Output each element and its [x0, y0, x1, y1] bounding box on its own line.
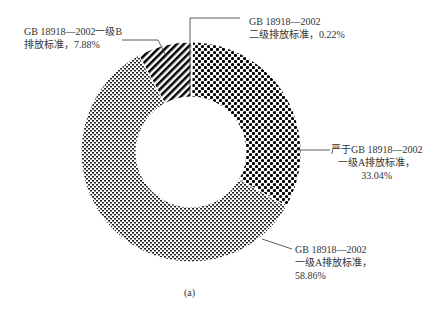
- label-grade1a: GB 18918—2002 一级A排放标准， 58.86%: [295, 243, 372, 282]
- label-grade1b-line2: 排放标准，7.88%: [24, 38, 122, 51]
- label-grade1a-line1: GB 18918—2002: [295, 243, 372, 256]
- label-stricter-line3: 33.04%: [331, 169, 422, 182]
- label-grade1b-line1: GB 18918—2002一级B: [24, 25, 122, 38]
- figure-caption: (a): [184, 286, 195, 299]
- leader-grade1a: [262, 239, 292, 249]
- slice-1: [192, 42, 301, 207]
- label-stricter: 严于GB 18918—2002 一级A排放标准， 33.04%: [331, 143, 422, 182]
- label-grade1a-line2: 一级A排放标准，: [295, 256, 372, 269]
- label-stricter-line2: 一级A排放标准，: [331, 156, 422, 169]
- label-stricter-line1: 严于GB 18918—2002: [331, 143, 422, 156]
- donut-slices: [81, 42, 301, 262]
- label-grade1b: GB 18918—2002一级B 排放标准，7.88%: [24, 25, 122, 51]
- label-grade2-line2: 二级排放标准，0.22%: [249, 28, 345, 41]
- label-grade2: GB 18918—2002 二级排放标准，0.22%: [249, 15, 345, 41]
- label-grade2-line1: GB 18918—2002: [249, 15, 345, 28]
- label-grade1a-line3: 58.86%: [295, 269, 372, 282]
